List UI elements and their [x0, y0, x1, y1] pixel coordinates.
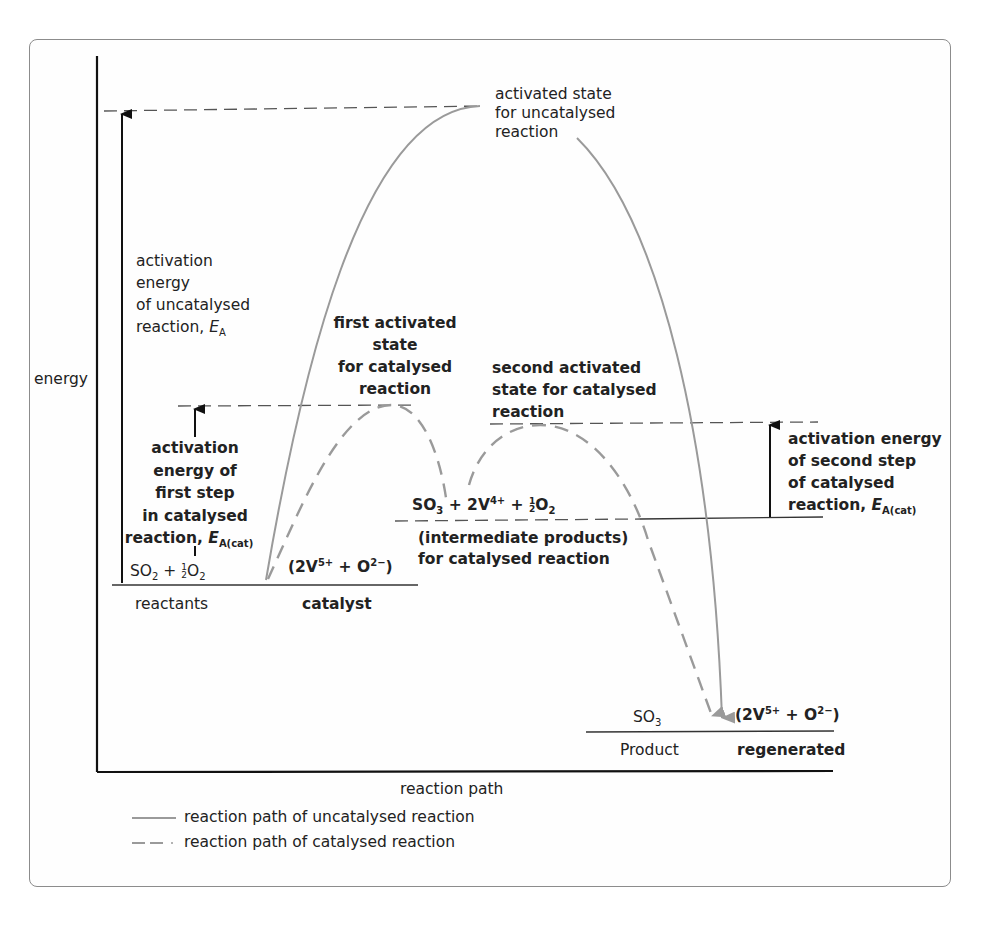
product-formula: SO3 — [633, 708, 661, 727]
reactants-label: reactants — [135, 595, 208, 614]
intermediate-formula: SO3 + 2V4+ + 12O2 — [412, 496, 555, 515]
intermediate-level-dashed — [395, 519, 640, 521]
reactants-formula: SO2 + 12O2 — [130, 562, 206, 581]
ea-uncatalysed-label: activation energy of uncatalysed reactio… — [136, 250, 250, 338]
legend-item-catalysed: reaction path of catalysed reaction — [184, 833, 455, 852]
y-axis-label: energy — [34, 370, 88, 389]
legend-item-uncatalysed: reaction path of uncatalysed reaction — [184, 808, 475, 827]
intermediate-label: (intermediate products) for catalysed re… — [418, 528, 628, 570]
intermediate-level-solid — [640, 517, 823, 519]
uncatalysed-peak-label: activated state for uncatalysed reaction — [495, 85, 615, 142]
catalysed-curve-second-hump — [469, 425, 712, 716]
ea-first-step-label: activation energy of first step in catal… — [120, 437, 270, 550]
axes — [97, 56, 833, 772]
x-axis-label: reaction path — [400, 780, 503, 799]
ea-second-step-label: activation energy of second step of cata… — [788, 428, 942, 516]
first-activated-state-label: first activated state for catalysed reac… — [320, 312, 470, 400]
regenerated-label: regenerated — [737, 741, 845, 760]
uncat-peak-guide — [104, 106, 484, 111]
x-axis — [97, 771, 833, 772]
energy-level-guides — [104, 106, 834, 732]
product-level — [586, 731, 834, 732]
uncatalysed-curve-descent — [577, 138, 722, 718]
legend-swatches — [132, 818, 176, 844]
second-activated-state-label: second activated state for catalysed rea… — [492, 357, 657, 423]
catalyst-label: catalyst — [302, 595, 372, 614]
regenerated-catalyst-formula: (2V5+ + O2−) — [735, 706, 840, 725]
catalyst-formula: (2V5+ + O2−) — [288, 558, 393, 577]
product-label: Product — [620, 741, 679, 760]
